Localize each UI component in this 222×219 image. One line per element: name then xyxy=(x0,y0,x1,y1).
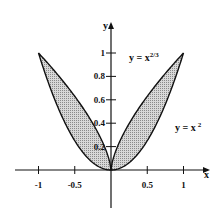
curve-label-x-squared: y = x2 xyxy=(175,121,202,133)
x-tick-label: 0.5 xyxy=(142,180,154,190)
chart-plot: -1-0.50.510.20.40.60.81 x y y = x2/3 y =… xyxy=(0,0,222,219)
x-tick-label: 1 xyxy=(181,180,186,190)
y-tick-label: 0.8 xyxy=(94,71,106,81)
x-tick-label: -1 xyxy=(35,180,43,190)
y-axis-label: y xyxy=(103,20,108,31)
y-tick-label: 1 xyxy=(101,48,106,58)
curve-label-x-two-thirds: y = x2/3 xyxy=(129,51,159,63)
y-tick-label: 0.6 xyxy=(94,95,106,105)
y-tick-label: 0.4 xyxy=(94,118,106,128)
x-axis-label: x xyxy=(204,169,209,180)
x-tick-label: -0.5 xyxy=(68,180,83,190)
y-axis-arrow-icon xyxy=(108,22,114,29)
y-tick-label: 0.2 xyxy=(94,142,106,152)
